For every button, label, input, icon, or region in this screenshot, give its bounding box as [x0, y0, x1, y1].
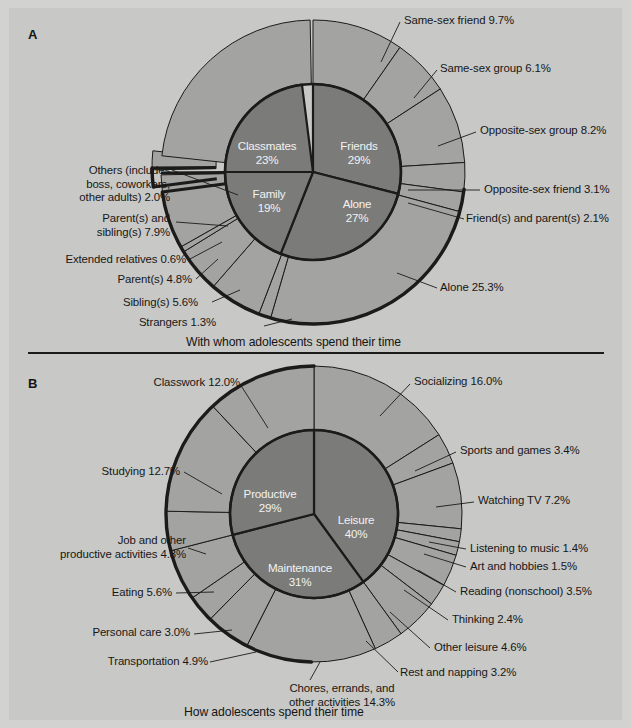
panel-divider	[28, 352, 604, 354]
inner-slice-value: 23%	[256, 153, 279, 166]
label-friends-and-parents: Friend(s) and parent(s) 2.1%	[466, 212, 609, 226]
inner-slice-label: Friends	[340, 139, 378, 152]
figure-page: A Friends29%Alone27%Family19%Classmates2…	[0, 0, 631, 728]
inner-slice-value: 40%	[345, 527, 368, 540]
label-opposite-sex-group: Opposite-sex group 8.2%	[480, 124, 606, 138]
label-classwork: Classwork 12.0%	[120, 376, 240, 390]
label-transportation: Transportation 4.9%	[36, 655, 208, 669]
label-parents: Parent(s) 4.8%	[40, 273, 192, 287]
label-studying: Studying 12.7%	[60, 465, 180, 479]
label-personal-care: Personal care 3.0%	[30, 626, 190, 640]
inner-slice-value: 27%	[346, 211, 369, 224]
inner-slice-value: 29%	[348, 153, 371, 166]
label-siblings: Sibling(s) 5.6%	[46, 296, 198, 310]
label-other-leisure: Other leisure 4.6%	[434, 641, 527, 655]
inner-slice-label: Alone	[343, 197, 372, 210]
label-thinking: Thinking 2.4%	[452, 613, 523, 627]
inner-slice-value: 31%	[289, 575, 312, 588]
label-others: Others (includes boss, coworkers, other …	[22, 164, 170, 205]
panel-b-caption: How adolescents spend their time	[184, 705, 364, 719]
label-opposite-sex-friend: Opposite-sex friend 3.1%	[484, 183, 610, 197]
label-reading-nonschool: Reading (nonschool) 3.5%	[460, 585, 592, 599]
label-same-sex-friend: Same-sex friend 9.7%	[404, 14, 514, 28]
leader-line	[310, 662, 320, 680]
inner-slice-value: 19%	[258, 201, 281, 214]
label-sports-and-games: Sports and games 3.4%	[460, 444, 579, 458]
panel-b: B Leisure40%Maintenance31%Productive29% …	[0, 364, 631, 728]
label-alone-outer: Alone 25.3%	[440, 281, 504, 295]
label-art-and-hobbies: Art and hobbies 1.5%	[470, 560, 577, 574]
panel-a: A Friends29%Alone27%Family19%Classmates2…	[0, 0, 631, 364]
inner-slice-label: Classmates	[238, 139, 297, 152]
panel-a-caption: With whom adolescents spend their time	[186, 335, 401, 349]
label-strangers: Strangers 1.3%	[80, 316, 216, 330]
label-job-and-other: Job and other productive activities 4.3%	[8, 534, 186, 561]
label-listening-to-music: Listening to music 1.4%	[470, 542, 588, 556]
label-extended-relatives: Extended relatives 0.6%	[10, 253, 186, 267]
label-rest-and-napping: Rest and napping 3.2%	[400, 666, 516, 680]
label-eating: Eating 5.6%	[48, 586, 172, 600]
inner-slice-label: Maintenance	[268, 561, 332, 574]
label-parents-and-siblings: Parent(s) and sibling(s) 7.9%	[32, 212, 170, 239]
label-socializing: Socializing 16.0%	[414, 375, 502, 389]
inner-slice-value: 29%	[259, 501, 282, 514]
leader-line	[210, 652, 256, 662]
label-same-sex-group: Same-sex group 6.1%	[440, 62, 551, 76]
label-watching-tv: Watching TV 7.2%	[478, 494, 570, 508]
inner-slice-label: Productive	[244, 487, 297, 500]
inner-slice-label: Leisure	[338, 513, 375, 526]
inner-slice-label: Family	[253, 187, 286, 200]
